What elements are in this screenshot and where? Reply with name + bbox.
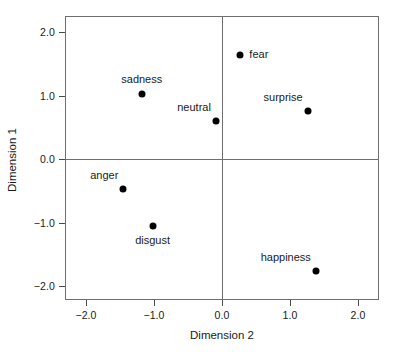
point-label: sadness xyxy=(121,73,162,85)
point-marker xyxy=(212,117,219,124)
y-tick xyxy=(59,159,65,160)
y-tick-label: −2.0 xyxy=(21,280,55,292)
point-marker xyxy=(138,91,145,98)
zero-reference-line-vertical xyxy=(222,16,223,300)
x-tick xyxy=(358,300,359,306)
y-tick xyxy=(59,286,65,287)
point-marker xyxy=(120,186,127,193)
point-marker xyxy=(304,108,311,115)
x-tick-label: 2.0 xyxy=(351,309,366,321)
x-tick xyxy=(222,300,223,306)
y-tick xyxy=(59,223,65,224)
x-tick xyxy=(86,300,87,306)
point-label: fear xyxy=(249,48,268,60)
point-label: neutral xyxy=(177,101,211,113)
scatter-plot-figure: −2.0−1.00.01.02.0 −2.0−1.00.01.02.0 fear… xyxy=(0,0,398,357)
x-axis-title: Dimension 2 xyxy=(190,329,254,341)
x-tick-label: −1.0 xyxy=(143,309,164,321)
x-tick-label: 0.0 xyxy=(215,309,230,321)
point-label: disgust xyxy=(135,234,170,246)
x-tick-label: −2.0 xyxy=(75,309,96,321)
x-tick xyxy=(154,300,155,306)
x-tick-label: 1.0 xyxy=(283,309,298,321)
y-tick-label: 1.0 xyxy=(21,90,55,102)
point-marker xyxy=(312,268,319,275)
x-tick xyxy=(290,300,291,306)
y-tick-label: −1.0 xyxy=(21,217,55,229)
point-label: anger xyxy=(90,169,118,181)
y-tick xyxy=(59,96,65,97)
point-label: surprise xyxy=(264,91,303,103)
y-tick xyxy=(59,32,65,33)
point-marker xyxy=(149,222,156,229)
point-label: happiness xyxy=(261,251,311,263)
point-marker xyxy=(237,52,244,59)
y-axis-title: Dimension 1 xyxy=(6,128,18,192)
y-tick-label: 0.0 xyxy=(21,153,55,165)
y-tick-label: 2.0 xyxy=(21,26,55,38)
